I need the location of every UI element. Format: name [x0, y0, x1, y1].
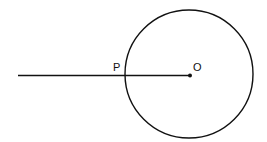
label-o: O	[193, 61, 202, 73]
diagram-canvas: P O	[0, 0, 267, 142]
label-p: P	[113, 61, 120, 73]
center-point-o	[188, 74, 192, 78]
